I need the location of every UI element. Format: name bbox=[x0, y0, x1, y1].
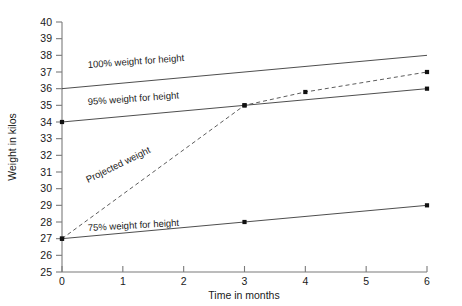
y-tick-label: 32 bbox=[40, 149, 52, 161]
chart-svg: 25262728293031323334353637383940 0123456… bbox=[0, 0, 462, 306]
y-tick-label: 33 bbox=[40, 132, 52, 144]
y-tick-label: 27 bbox=[40, 232, 52, 244]
y-tick-label: 34 bbox=[40, 116, 52, 128]
x-tick-label: 2 bbox=[181, 275, 187, 287]
x-tick-label: 3 bbox=[242, 275, 248, 287]
x-axis-title: Time in months bbox=[208, 289, 279, 301]
y-tick-label: 28 bbox=[40, 216, 52, 228]
y-tick-label: 30 bbox=[40, 182, 52, 194]
x-tick-label: 1 bbox=[120, 275, 126, 287]
data-point-marker bbox=[60, 120, 64, 124]
x-tick-label: 4 bbox=[302, 275, 308, 287]
y-tick-label: 35 bbox=[40, 99, 52, 111]
y-tick-label: 36 bbox=[40, 82, 52, 94]
y-tick-label: 31 bbox=[40, 166, 52, 178]
y-tick-label: 26 bbox=[40, 249, 52, 261]
data-point-marker bbox=[303, 90, 307, 94]
chart-background bbox=[0, 0, 462, 306]
y-tick-label: 39 bbox=[40, 32, 52, 44]
x-tick-label: 5 bbox=[363, 275, 369, 287]
data-point-marker bbox=[425, 203, 429, 207]
data-point-marker bbox=[242, 103, 246, 107]
data-point-marker bbox=[425, 87, 429, 91]
data-point-marker bbox=[60, 237, 64, 241]
y-axis-title: Weight in kilos bbox=[6, 113, 18, 181]
data-point-marker bbox=[425, 70, 429, 74]
y-tick-label: 25 bbox=[40, 266, 52, 278]
growth-chart: 25262728293031323334353637383940 0123456… bbox=[0, 0, 462, 306]
y-tick-label: 38 bbox=[40, 49, 52, 61]
x-tick-label: 0 bbox=[59, 275, 65, 287]
data-point-marker bbox=[242, 220, 246, 224]
y-tick-label: 40 bbox=[40, 16, 52, 28]
y-tick-label: 37 bbox=[40, 66, 52, 78]
y-tick-label: 29 bbox=[40, 199, 52, 211]
x-tick-label: 6 bbox=[424, 275, 430, 287]
